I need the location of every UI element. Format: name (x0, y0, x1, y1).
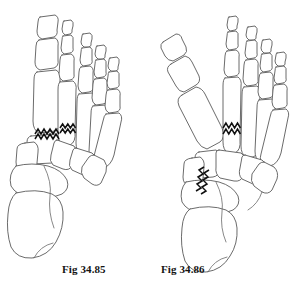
right-third-toe-proximal-phalanx (243, 59, 258, 86)
right-fourth-toe-middle-phalanx (260, 53, 272, 72)
left-third-toe-middle-phalanx (80, 47, 92, 66)
left-first-metatarsal (33, 70, 60, 133)
left-fourth-toe-middle-phalanx (94, 59, 106, 78)
left-hallux-proximal-phalanx (35, 38, 58, 70)
right-foot-figure (161, 16, 289, 272)
right-second-toe-middle-phalanx (226, 31, 238, 50)
left-third-toe-distal-phalanx (81, 33, 92, 47)
right-third-toe-distal-phalanx (246, 26, 257, 40)
foot-skeleton-illustration (0, 0, 301, 293)
right-fourth-toe-proximal-phalanx (258, 72, 273, 99)
right-fifth-toe-proximal-phalanx (272, 84, 287, 109)
right-second-metatarsal (223, 77, 241, 153)
right-fourth-toe-distal-phalanx (261, 39, 272, 53)
left-second-toe-middle-phalanx (61, 35, 73, 54)
right-fifth-toe-middle-phalanx (274, 66, 286, 84)
left-second-toe-proximal-phalanx (59, 54, 74, 81)
left-second-metatarsal (58, 81, 76, 145)
left-third-toe-proximal-phalanx (78, 66, 93, 93)
left-fifth-toe-proximal-phalanx (105, 89, 120, 113)
figure-caption-left: Fig 34.85 (62, 263, 106, 275)
left-fourth-toe-distal-phalanx (95, 45, 106, 59)
right-first-metatarsal (178, 87, 224, 149)
left-fifth-toe-distal-phalanx (108, 57, 119, 71)
left-calcaneus (7, 191, 63, 258)
right-lateral-border-contour (248, 192, 262, 210)
left-second-toe-distal-phalanx (62, 20, 73, 35)
figure-caption-right: Fig 34.86 (161, 263, 205, 275)
right-fifth-toe-distal-phalanx (275, 52, 286, 66)
right-second-toe-proximal-phalanx (224, 50, 239, 77)
left-fourth-toe-proximal-phalanx (92, 78, 107, 105)
figure-plate: Fig 34.85 Fig 34.86 (0, 0, 301, 293)
left-fifth-toe-middle-phalanx (107, 71, 119, 89)
right-third-toe-middle-phalanx (245, 40, 257, 59)
right-second-toe-distal-phalanx (227, 16, 238, 31)
left-hallux-distal-phalanx (37, 15, 58, 39)
left-foot-figure (7, 15, 121, 258)
